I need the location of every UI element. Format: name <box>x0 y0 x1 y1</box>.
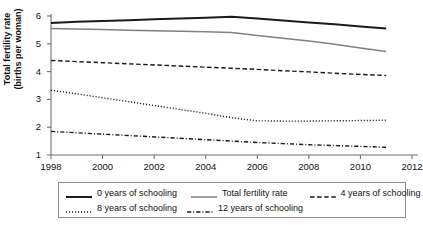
series-line-3 <box>51 90 386 121</box>
legend-label: 12 years of schooling <box>218 203 303 213</box>
x-tick-label: 2004 <box>189 161 223 172</box>
legend-swatch-dashed <box>310 188 336 198</box>
chart-legend: 0 years of schoolingTotal fertility rate… <box>58 182 406 218</box>
legend-entry[interactable]: 4 years of schooling <box>310 188 421 198</box>
legend-swatch-dashdot <box>187 203 213 213</box>
series-line-1 <box>51 29 386 52</box>
legend-swatch-solid <box>66 188 92 198</box>
chart-figure: Total fertility rate (births per woman) … <box>0 0 423 225</box>
x-tick-label: 2010 <box>343 161 377 172</box>
legend-label: 4 years of schooling <box>341 188 421 198</box>
x-tick-label: 2008 <box>292 161 326 172</box>
x-tick-label: 2006 <box>240 161 274 172</box>
legend-label: 0 years of schooling <box>97 188 177 198</box>
legend-entry[interactable]: 8 years of schooling <box>66 203 177 213</box>
legend-entry[interactable]: 12 years of schooling <box>187 203 303 213</box>
x-tick-label: 2000 <box>86 161 120 172</box>
y-tick-label: 4 <box>27 66 41 77</box>
legend-label: 8 years of schooling <box>97 203 177 213</box>
x-tick-label: 2012 <box>395 161 423 172</box>
legend-entry[interactable]: 0 years of schooling <box>66 188 177 198</box>
x-tick-label: 2002 <box>137 161 171 172</box>
legend-row: 8 years of schooling12 years of schoolin… <box>66 201 303 215</box>
x-tick-label: 1998 <box>34 161 68 172</box>
y-tick-label: 6 <box>27 10 41 21</box>
y-tick-label: 5 <box>27 38 41 49</box>
legend-swatch-dotted <box>66 203 92 213</box>
series-line-2 <box>51 60 386 75</box>
y-tick-label: 3 <box>27 93 41 104</box>
y-tick-label: 2 <box>27 121 41 132</box>
legend-swatch-solid <box>191 188 217 198</box>
legend-label: Total fertility rate <box>222 188 288 198</box>
legend-row: 0 years of schoolingTotal fertility rate… <box>66 186 421 200</box>
series-line-0 <box>51 17 386 29</box>
legend-entry[interactable]: Total fertility rate <box>191 188 288 198</box>
series-line-4 <box>51 131 386 147</box>
y-tick-label: 1 <box>27 149 41 160</box>
